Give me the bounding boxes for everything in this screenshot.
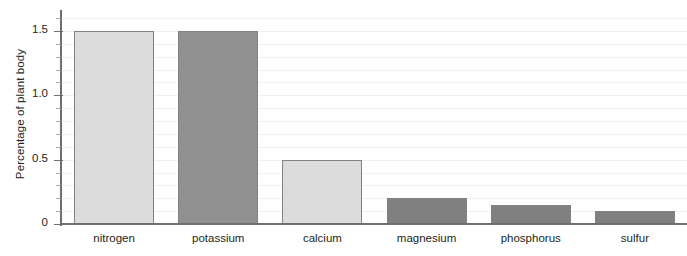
bar <box>491 205 571 224</box>
gridline <box>62 108 687 109</box>
y-axis-tick <box>54 95 63 96</box>
y-axis-minor-tick <box>56 121 61 122</box>
bar-chart: Percentage of plant body 00.51.01.5nitro… <box>0 0 687 256</box>
y-axis-minor-tick <box>56 44 61 45</box>
y-axis-tick <box>54 31 63 32</box>
y-axis-minor-tick <box>56 70 61 71</box>
gridline <box>62 57 687 58</box>
x-axis-tick-label: magnesium <box>375 232 479 244</box>
gridline <box>62 82 687 83</box>
x-axis-tick-label: phosphorus <box>479 232 583 244</box>
y-axis-tick <box>54 224 63 225</box>
y-axis-tick-label: 0 <box>42 216 48 228</box>
gridline <box>62 70 687 71</box>
x-axis-tick-label: calcium <box>270 232 374 244</box>
y-axis-minor-tick <box>56 18 61 19</box>
x-axis-tick-label: sulfur <box>583 232 687 244</box>
y-axis-title: Percentage of plant body <box>14 14 26 214</box>
y-axis-tick <box>54 160 63 161</box>
gridline <box>62 185 687 186</box>
y-axis-minor-tick <box>56 108 61 109</box>
gridline <box>62 18 687 19</box>
gridline <box>62 160 687 161</box>
gridline <box>62 31 687 32</box>
y-axis-minor-tick <box>56 211 61 212</box>
y-axis-minor-tick <box>56 147 61 148</box>
y-axis-tick-label: 0.5 <box>32 152 48 164</box>
plot-area <box>62 18 687 224</box>
bar <box>74 31 154 224</box>
x-axis-line <box>60 223 687 225</box>
x-axis-tick-label: nitrogen <box>62 232 166 244</box>
gridline <box>62 134 687 135</box>
y-axis-minor-tick <box>56 134 61 135</box>
gridline <box>62 173 687 174</box>
gridline <box>62 211 687 212</box>
gridline <box>62 198 687 199</box>
y-axis-minor-tick <box>56 198 61 199</box>
y-axis-line <box>60 10 62 226</box>
y-axis-minor-tick <box>56 82 61 83</box>
y-axis-tick-label: 1.5 <box>32 23 48 35</box>
gridline <box>62 95 687 96</box>
bar <box>178 31 258 224</box>
bar <box>387 198 467 224</box>
y-axis-tick-label: 1.0 <box>32 87 48 99</box>
bar <box>282 160 362 224</box>
y-axis-minor-tick <box>56 173 61 174</box>
x-axis-tick-label: potassium <box>166 232 270 244</box>
gridline <box>62 121 687 122</box>
y-axis-minor-tick <box>56 185 61 186</box>
gridline <box>62 147 687 148</box>
y-axis-minor-tick <box>56 57 61 58</box>
gridline <box>62 44 687 45</box>
